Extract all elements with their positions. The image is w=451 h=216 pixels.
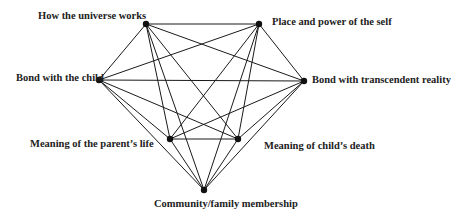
edge-mc-cf	[204, 139, 238, 190]
label-place-power-self: Place and power of the self	[272, 16, 392, 28]
label-meaning-parents-life: Meaning of the parent’s life	[30, 138, 154, 150]
edge-hu-bt	[146, 24, 304, 81]
edge-mp-cf	[170, 139, 204, 190]
node-pp	[256, 21, 262, 27]
node-mc	[235, 136, 241, 142]
label-how-universe-works: How the universe works	[38, 10, 146, 22]
node-bt	[301, 78, 307, 84]
edge-pp-mp	[170, 24, 259, 139]
label-community-family: Community/family membership	[154, 198, 298, 210]
node-cf	[201, 187, 207, 193]
edge-hu-mc	[146, 24, 238, 139]
edge-bt-mc	[238, 81, 304, 139]
edges	[99, 24, 304, 190]
edge-bc-cf	[99, 80, 204, 190]
edge-bc-bt	[99, 80, 304, 81]
label-bond-transcendent: Bond with transcendent reality	[312, 74, 451, 86]
edge-pp-mc	[238, 24, 259, 139]
edge-bt-cf	[204, 81, 304, 190]
node-mp	[167, 136, 173, 142]
label-meaning-childs-death: Meaning of child’s death	[264, 140, 375, 152]
label-bond-with-child: Bond with the child	[16, 72, 104, 84]
